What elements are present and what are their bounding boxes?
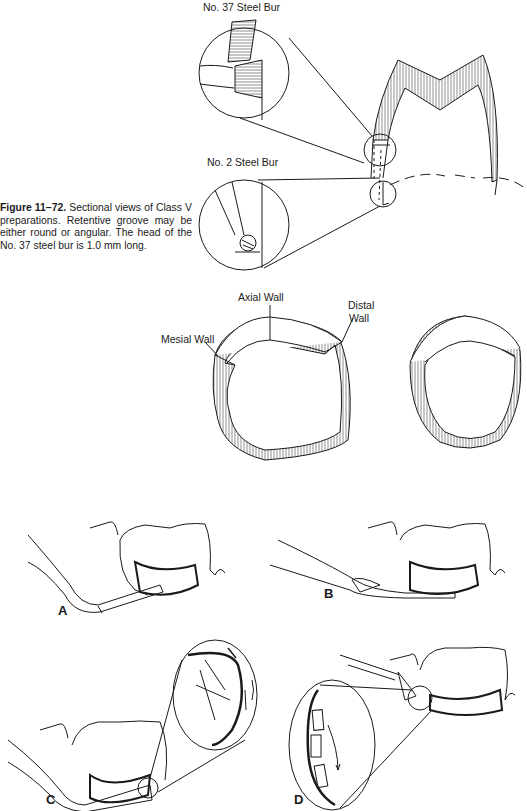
- panel-label-a: A: [58, 603, 67, 618]
- label-distal-wall-line1: Distal: [348, 299, 374, 311]
- panel-d-illustration: [289, 647, 515, 810]
- figure-illustration: [0, 0, 527, 811]
- tooth-section-top: [364, 55, 527, 207]
- label-axial-wall: Axial Wall: [238, 291, 284, 303]
- label-no-37-steel-bur: No. 37 Steel Bur: [203, 1, 280, 13]
- magnifier-bur-2: [199, 178, 380, 270]
- panel-label-d: D: [294, 792, 303, 807]
- panel-label-b: B: [324, 586, 333, 601]
- panel-b-illustration: [270, 522, 505, 598]
- magnifier-bur-37: [199, 20, 372, 163]
- figure-number: Figure 11–72.: [0, 202, 66, 213]
- cross-section-left: [205, 305, 353, 460]
- label-no-2-steel-bur: No. 2 Steel Bur: [207, 156, 278, 168]
- label-distal-wall-line2: Wall: [349, 312, 369, 324]
- panel-c-illustration: [8, 640, 257, 811]
- panel-a-illustration: [28, 522, 225, 613]
- cross-section-right: [410, 316, 521, 448]
- panel-label-c: C: [46, 792, 55, 807]
- figure-caption: Figure 11–72. Sectional views of Class V…: [0, 202, 192, 252]
- label-mesial-wall: Mesial Wall: [161, 333, 214, 345]
